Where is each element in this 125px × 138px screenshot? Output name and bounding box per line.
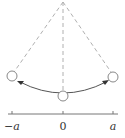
bob-center xyxy=(58,91,68,101)
tick-label-a: a xyxy=(110,120,117,133)
tick-label-neg-a: −a xyxy=(4,120,20,133)
arrowhead-right-icon xyxy=(102,80,109,85)
bob-right xyxy=(108,72,118,82)
string-left xyxy=(14,2,63,72)
pendulum-diagram xyxy=(0,0,125,138)
bob-left xyxy=(7,71,17,81)
pendulum-strings xyxy=(14,2,111,91)
tick-label-zero: 0 xyxy=(60,120,67,133)
string-right xyxy=(63,2,111,72)
